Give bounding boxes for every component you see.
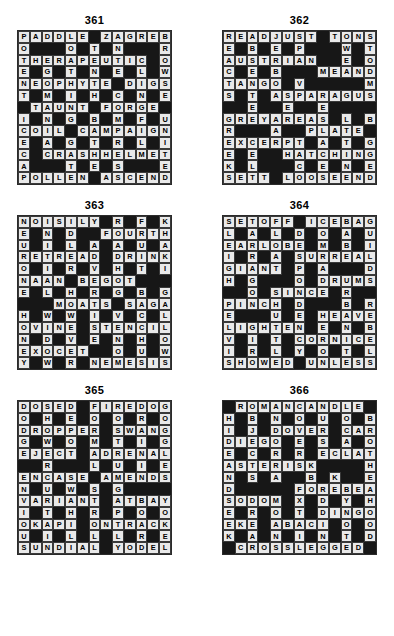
crossword-cell-letter: U (352, 90, 364, 102)
crossword-cell-letter: T (247, 460, 259, 472)
crossword-cell-letter: S (159, 357, 171, 369)
crossword-cell-block (100, 287, 112, 299)
crossword-cell-letter: N (18, 275, 30, 287)
crossword-grid-363[interactable]: NOISILYRFKENDFOURTHUILAAUARETREADDRINKOI… (17, 215, 172, 370)
crossword-cell-letter: N (329, 334, 341, 346)
crossword-cell-block (329, 530, 341, 542)
crossword-cell-letter: S (317, 172, 329, 184)
crossword-cell-letter: S (100, 298, 112, 310)
crossword-cell-letter: K (223, 530, 235, 542)
crossword-cell-letter: I (282, 55, 294, 67)
crossword-cell-letter: T (89, 495, 101, 507)
crossword-cell-letter: E (317, 287, 329, 299)
crossword-cell-block (77, 357, 89, 369)
crossword-cell-block (53, 66, 65, 78)
crossword-cell-letter: O (65, 43, 77, 55)
crossword-cell-letter: N (42, 113, 54, 125)
crossword-cell-block (364, 542, 376, 554)
crossword-grid-366[interactable]: ROMANCANDLEHBNOUOBIJDOVERCARDIEGOESAOECR… (222, 400, 377, 555)
crossword-cell-letter: S (223, 90, 235, 102)
crossword-cell-block (305, 228, 317, 240)
crossword-cell-letter: C (294, 160, 306, 172)
crossword-cell-block (147, 240, 159, 252)
crossword-cell-block (294, 102, 306, 114)
crossword-cell-letter: A (89, 125, 101, 137)
crossword-cell-letter: I (305, 216, 317, 228)
crossword-cell-letter: H (65, 507, 77, 519)
crossword-cell-block (305, 66, 317, 78)
crossword-cell-letter: J (247, 425, 259, 437)
crossword-cell-letter: N (100, 519, 112, 531)
crossword-cell-letter: T (159, 149, 171, 161)
crossword-cell-block (147, 275, 159, 287)
crossword-cell-letter: U (341, 275, 353, 287)
crossword-cell-letter: C (112, 90, 124, 102)
crossword-cell-letter: E (317, 448, 329, 460)
crossword-cell-letter: G (100, 275, 112, 287)
crossword-cell-letter: R (270, 55, 282, 67)
crossword-cell-letter: E (223, 519, 235, 531)
crossword-cell-letter: K (223, 160, 235, 172)
crossword-cell-block (352, 519, 364, 531)
crossword-cell-letter: S (364, 275, 376, 287)
crossword-cell-letter: O (30, 125, 42, 137)
crossword-cell-block (124, 90, 136, 102)
crossword-cell-letter: O (18, 519, 30, 531)
crossword-grid-364[interactable]: SETOFFICEBAGLALDOAUEARLOBEMBIIRASURREALG… (222, 215, 377, 370)
crossword-cell-letter: O (18, 43, 30, 55)
crossword-cell-letter: S (223, 172, 235, 184)
crossword-cell-letter: R (247, 345, 259, 357)
crossword-cell-letter: L (65, 530, 77, 542)
crossword-cell-letter: G (258, 436, 270, 448)
crossword-cell-letter: L (89, 460, 101, 472)
crossword-cell-block (317, 78, 329, 90)
crossword-cell-block (147, 413, 159, 425)
crossword-cell-letter: G (352, 507, 364, 519)
crossword-cell-block (247, 483, 259, 495)
crossword-cell-letter: I (42, 263, 54, 275)
crossword-cell-letter: G (329, 542, 341, 554)
crossword-cell-block (147, 287, 159, 299)
crossword-cell-block (352, 436, 364, 448)
crossword-cell-letter: A (329, 90, 341, 102)
crossword-cell-letter: E (247, 519, 259, 531)
crossword-cell-letter: L (53, 172, 65, 184)
crossword-cell-letter: E (159, 160, 171, 172)
crossword-cell-letter: R (136, 31, 148, 43)
crossword-cell-letter: E (341, 251, 353, 263)
crossword-cell-letter: I (18, 113, 30, 125)
crossword-cell-letter: E (124, 357, 136, 369)
crossword-cell-letter: O (42, 425, 54, 437)
crossword-cell-block (30, 149, 42, 161)
crossword-cell-block (282, 472, 294, 484)
crossword-cell-letter: E (100, 357, 112, 369)
crossword-cell-block (53, 413, 65, 425)
crossword-cell-letter: K (159, 519, 171, 531)
crossword-cell-letter: Z (100, 31, 112, 43)
crossword-cell-letter: O (65, 298, 77, 310)
crossword-grid-362[interactable]: READJUSTTONSEBEPWTAUSTRIANEOCEBMEANDTANG… (222, 30, 377, 185)
crossword-cell-letter: I (294, 530, 306, 542)
crossword-cell-letter: E (247, 113, 259, 125)
crossword-cell-letter: L (223, 322, 235, 334)
crossword-cell-letter: F (100, 102, 112, 114)
crossword-grid-365[interactable]: DOSEDFIREDOGOHEOORODROPPERSWANGGWOMTIGEJ… (17, 400, 172, 555)
crossword-cell-letter: M (112, 357, 124, 369)
crossword-cell-block (77, 160, 89, 172)
crossword-cell-letter: I (136, 460, 148, 472)
crossword-cell-letter: A (223, 460, 235, 472)
crossword-cell-block (30, 310, 42, 322)
crossword-cell-letter: R (329, 275, 341, 287)
crossword-cell-letter: O (42, 78, 54, 90)
crossword-cell-letter: E (235, 216, 247, 228)
crossword-cell-letter: F (136, 113, 148, 125)
crossword-grid-361[interactable]: PADDLEZAGREBOOTNRTHERAPEUTICOEGTNELWNEOP… (17, 30, 172, 185)
crossword-cell-letter: T (270, 263, 282, 275)
crossword-cell-block (30, 483, 42, 495)
crossword-cell-letter: P (18, 31, 30, 43)
crossword-cell-letter: L (159, 542, 171, 554)
crossword-cell-block (235, 66, 247, 78)
crossword-cell-letter: N (53, 322, 65, 334)
crossword-cell-block (352, 495, 364, 507)
crossword-cell-block (235, 228, 247, 240)
